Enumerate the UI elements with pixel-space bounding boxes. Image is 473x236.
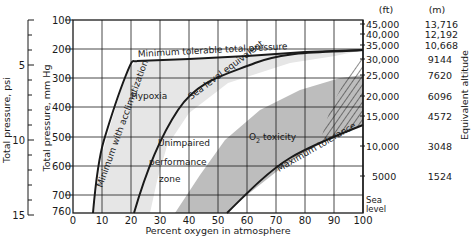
alt-ft-10000: 10,000 — [366, 141, 399, 152]
y-tick-200: 200 — [52, 44, 71, 55]
y-tick-400: 400 — [52, 102, 71, 113]
x-tick-80: 80 — [299, 215, 312, 226]
right-axis-title: Equivalent altitude — [459, 50, 470, 140]
alt-m-7620: 7620 — [428, 70, 452, 81]
alt-ft-15000: 15,000 — [366, 111, 399, 122]
label-zone: zone — [159, 174, 181, 184]
alt-ft-35000: 35,000 — [366, 40, 399, 51]
alt-ft-30000: 30,000 — [366, 54, 399, 65]
y-axis-mmhg: 100 200 300 400 500 600 700 760 Total pr… — [41, 15, 73, 217]
alt-m-6096: 6096 — [428, 91, 452, 102]
alt-ft-5000: 5000 — [372, 171, 396, 182]
right-altitude-axis: (ft) (m) 45,000 13,716 40,000 12,192 35,… — [360, 4, 470, 214]
alt-ft-25000: 25,000 — [366, 70, 399, 81]
y-axis-mmhg-title: Total pressure, mm Hg — [41, 65, 52, 173]
oxygen-pressure-chart: 100 200 300 400 500 600 700 760 Total pr… — [0, 0, 473, 236]
x-tick-20: 20 — [125, 215, 138, 226]
alt-m-12192: 12,192 — [425, 29, 458, 40]
m-header: (m) — [429, 4, 446, 15]
label-unimpaired: Unimpaired — [158, 138, 210, 148]
label-performance: performance — [149, 157, 207, 167]
y-tick-100: 100 — [52, 15, 71, 26]
y-tick-600: 600 — [52, 161, 71, 172]
x-axis-title: Percent oxygen in atmosphere — [145, 225, 290, 236]
x-tick-0: 0 — [70, 215, 76, 226]
alt-m-1524: 1524 — [428, 171, 452, 182]
y-axis-psi — [28, 20, 34, 215]
ft-header: (ft) — [379, 4, 393, 15]
x-tick-90: 90 — [328, 215, 341, 226]
psi-tick-10: 10 — [12, 135, 25, 146]
alt-m-4572: 4572 — [428, 111, 452, 122]
psi-tick-5: 5 — [19, 60, 25, 71]
alt-m-9144: 9144 — [428, 54, 452, 65]
alt-m-3048: 3048 — [428, 141, 452, 152]
label-hypoxia: Hypoxia — [131, 91, 167, 101]
alt-ft-20000: 20,000 — [366, 91, 399, 102]
y-tick-700: 700 — [52, 190, 71, 201]
y-axis-psi-title: Total pressure, psi — [1, 77, 12, 164]
x-tick-100: 100 — [353, 215, 372, 226]
y-tick-500: 500 — [52, 132, 71, 143]
psi-tick-15: 15 — [12, 210, 25, 221]
y-tick-760: 760 — [52, 206, 71, 217]
x-tick-10: 10 — [96, 215, 109, 226]
y-tick-300: 300 — [52, 73, 71, 84]
sea-level-label-2: level — [366, 204, 386, 214]
alt-m-10668: 10,668 — [425, 40, 458, 51]
x-axis: 0 10 20 30 40 50 60 70 80 90 100 Percent… — [70, 215, 373, 236]
alt-ft-40000: 40,000 — [366, 29, 399, 40]
